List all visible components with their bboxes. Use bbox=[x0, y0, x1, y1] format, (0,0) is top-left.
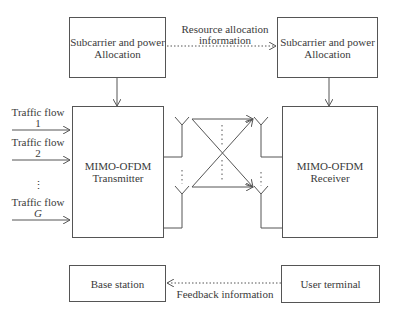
traffic-flow-2-label: Traffic flow2 bbox=[8, 137, 68, 159]
transmitter-label-1: MIMO-OFDM bbox=[85, 160, 152, 172]
traffic-flow-1-label: Traffic flow1 bbox=[8, 107, 68, 129]
base-station-label: Base station bbox=[91, 278, 144, 290]
traffic-flow-index: 2 bbox=[35, 147, 41, 159]
rx-alloc-label-2: Allocation bbox=[304, 48, 350, 60]
rx-alloc-label-1: Subcarrier and power bbox=[280, 36, 375, 48]
rx-subcarrier-power-allocation-box: Subcarrier and powerAllocation bbox=[277, 17, 378, 78]
mimo-ofdm-receiver-box: MIMO-OFDMReceiver bbox=[282, 106, 378, 238]
user-terminal-box: User terminal bbox=[281, 265, 380, 303]
receiver-label-2: Receiver bbox=[310, 172, 349, 184]
tx-alloc-label-1: Subcarrier and power bbox=[70, 36, 165, 48]
receiver-label-1: MIMO-OFDM bbox=[297, 160, 364, 172]
base-station-box: Base station bbox=[69, 265, 166, 302]
tx-subcarrier-power-allocation-box: Subcarrier and powerAllocation bbox=[69, 17, 166, 78]
transmitter-label-2: Transmitter bbox=[93, 172, 144, 184]
traffic-flow-ellipsis: ⋮ bbox=[8, 180, 68, 191]
resource-info-line-2: information bbox=[199, 34, 251, 46]
traffic-flow-index: G bbox=[34, 207, 42, 219]
traffic-flow-index: 1 bbox=[35, 117, 41, 129]
traffic-flow-g-label: Traffic flowG bbox=[8, 197, 68, 219]
resource-allocation-info-label: Resource allocationinformation bbox=[175, 24, 275, 46]
feedback-information-label: Feedback information bbox=[175, 289, 275, 300]
tx-alloc-label-2: Allocation bbox=[94, 48, 140, 60]
mimo-ofdm-transmitter-box: MIMO-OFDMTransmitter bbox=[72, 106, 164, 238]
user-terminal-label: User terminal bbox=[300, 278, 360, 290]
